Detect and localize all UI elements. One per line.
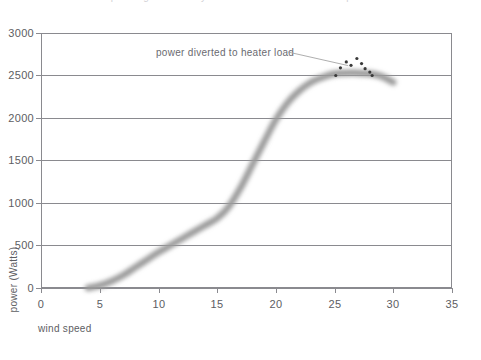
gridline-1000: [41, 203, 452, 204]
gridline-500: [41, 245, 452, 246]
ytick-label-1000: 1000: [0, 197, 34, 209]
ytick-mark-3000: [36, 33, 41, 34]
ytick-mark-1000: [36, 203, 41, 204]
xtick-mark-5: [100, 288, 101, 293]
ytick-label-2500: 2500: [0, 69, 34, 81]
xtick-mark-15: [217, 288, 218, 293]
xtick-label-25: 25: [315, 298, 355, 310]
gridline-2500: [41, 75, 452, 76]
annotation-label: power diverted to heater load: [156, 47, 294, 58]
ytick-label-2000: 2000: [0, 112, 34, 124]
xtick-label-0: 0: [21, 298, 61, 310]
xtick-label-30: 30: [373, 298, 413, 310]
gridline-1500: [41, 160, 452, 161]
chart-container: power generated by a wind turbine versus…: [0, 0, 481, 360]
ytick-label-1500: 1500: [0, 154, 34, 166]
xtick-mark-0: [41, 288, 42, 293]
xtick-label-10: 10: [139, 298, 179, 310]
gridline-2000: [41, 118, 452, 119]
gridline-0: [41, 288, 452, 289]
xtick-label-15: 15: [197, 298, 237, 310]
ytick-mark-2500: [36, 75, 41, 76]
xtick-mark-20: [276, 288, 277, 293]
xtick-label-35: 35: [432, 298, 472, 310]
ytick-mark-500: [36, 245, 41, 246]
ytick-mark-1500: [36, 160, 41, 161]
xtick-mark-10: [159, 288, 160, 293]
xtick-mark-30: [393, 288, 394, 293]
xtick-label-20: 20: [256, 298, 296, 310]
xtick-mark-35: [452, 288, 453, 293]
y-axis-title: power (Watts): [8, 240, 19, 320]
gridline-3000: [41, 33, 452, 34]
x-axis-title: wind speed: [38, 323, 92, 334]
ytick-label-3000: 3000: [0, 27, 34, 39]
chart-title: power generated by a wind turbine versus…: [0, 0, 481, 2]
xtick-label-5: 5: [80, 298, 120, 310]
ytick-mark-2000: [36, 118, 41, 119]
xtick-mark-25: [335, 288, 336, 293]
